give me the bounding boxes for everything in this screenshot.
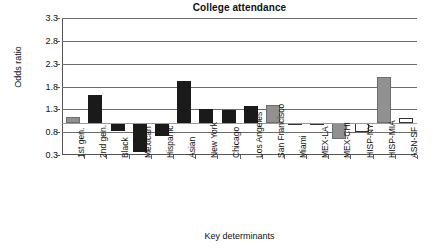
- bar: [377, 77, 391, 123]
- y-tick-label: 1.3: [12, 105, 58, 114]
- x-tick-label: Mexican: [144, 126, 153, 158]
- x-axis-label: Key determinants: [62, 231, 417, 241]
- y-tick-mark: [56, 87, 60, 88]
- bar: [199, 109, 213, 123]
- y-tick-mark: [56, 109, 60, 110]
- x-tick-label: 2nd gen.: [99, 125, 108, 158]
- y-tick-label: 2.3: [12, 60, 58, 69]
- x-tick-label: Miami: [299, 135, 308, 158]
- x-tick-label: 1st gen.: [77, 128, 86, 158]
- x-tick-label: New York: [210, 122, 219, 158]
- bar: [222, 110, 236, 123]
- y-tick-label: 3.3: [12, 14, 58, 23]
- x-tick-label: ASN-SF: [410, 127, 419, 158]
- y-tick-mark: [56, 41, 60, 42]
- y-tick-label: 1.8: [12, 83, 58, 92]
- y-tick-mark: [56, 64, 60, 65]
- gridline: [62, 41, 417, 42]
- y-tick-mark: [56, 132, 60, 133]
- chart-title: College attendance: [62, 2, 417, 13]
- gridline: [62, 18, 417, 19]
- x-tick-label: MEX-LA: [321, 126, 330, 158]
- x-tick-label: Hispanic: [166, 125, 175, 158]
- y-tick-mark: [56, 155, 60, 156]
- gridline: [62, 109, 417, 110]
- bar: [88, 95, 102, 123]
- x-tick-label: San Francisco: [277, 104, 286, 158]
- gridline: [62, 87, 417, 88]
- y-tick-label: 0.3: [12, 151, 58, 160]
- baseline-1-0: [62, 123, 417, 124]
- bar: [111, 123, 125, 131]
- x-tick-label: Chicago: [232, 127, 241, 158]
- x-axis-tick-labels: 1st gen.2nd gen.BlackMexicanHispanicAsia…: [62, 158, 417, 228]
- y-tick-label: 2.8: [12, 37, 58, 46]
- x-tick-label: Black: [121, 137, 130, 158]
- bar: [177, 81, 191, 123]
- y-tick-mark: [56, 18, 60, 19]
- y-tick-label: 0.8: [12, 128, 58, 137]
- y-axis-tick-labels: 0.30.81.31.82.32.83.3: [8, 18, 58, 155]
- x-tick-label: MEX-CHI: [343, 122, 352, 158]
- chart-figure: College attendance Odds ratio 0.30.81.31…: [0, 0, 437, 251]
- x-tick-label: HISP-MIA: [388, 120, 397, 158]
- x-tick-label: Asian: [188, 137, 197, 158]
- gridline: [62, 64, 417, 65]
- x-tick-label: HISP-NY: [366, 124, 375, 158]
- x-tick-label: Los Angeles: [255, 112, 264, 158]
